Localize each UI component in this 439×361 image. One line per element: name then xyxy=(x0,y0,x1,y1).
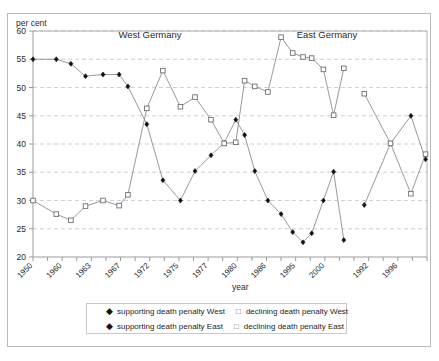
data-point-filled-diamond[interactable] xyxy=(101,72,105,77)
legend-label: declining death penalty West xyxy=(246,307,348,316)
data-point-filled-diamond[interactable] xyxy=(342,238,346,243)
data-point-open-square[interactable] xyxy=(31,198,36,203)
y-tick-label: 40 xyxy=(17,139,27,149)
data-point-open-square[interactable] xyxy=(253,84,258,89)
legend-row: ◆ supporting death penalty East □ declin… xyxy=(87,319,346,334)
x-tick-label: 1986 xyxy=(249,261,268,280)
data-point-open-square[interactable] xyxy=(423,152,428,157)
data-point-filled-diamond[interactable] xyxy=(145,122,149,127)
data-point-open-square[interactable] xyxy=(234,140,239,145)
legend-item-declining-west[interactable]: □ declining death penalty West xyxy=(234,307,348,316)
data-point-filled-diamond[interactable] xyxy=(332,169,336,174)
data-point-open-square[interactable] xyxy=(222,141,227,146)
data-point-open-square[interactable] xyxy=(362,91,367,96)
data-point-filled-diamond[interactable] xyxy=(362,203,366,208)
data-point-open-square[interactable] xyxy=(193,95,198,100)
data-point-filled-diamond[interactable] xyxy=(321,198,325,203)
data-point-open-square[interactable] xyxy=(388,141,393,146)
x-tick-label: 1996 xyxy=(380,261,399,280)
x-tick-label: 2000 xyxy=(307,261,326,280)
x-tick-label: 1972 xyxy=(132,261,151,280)
data-point-open-square[interactable] xyxy=(301,55,306,60)
y-tick-label: 60 xyxy=(17,26,27,36)
filled-diamond-icon: ◆ xyxy=(105,322,114,331)
data-point-open-square[interactable] xyxy=(321,67,326,72)
data-point-open-square[interactable] xyxy=(331,113,336,118)
x-tick-label: 1975 xyxy=(161,261,180,280)
data-point-open-square[interactable] xyxy=(69,218,74,223)
chart-legend: ◆ supporting death penalty West □ declin… xyxy=(86,303,347,334)
y-tick-label: 45 xyxy=(17,111,27,121)
x-tick-label: 1980 xyxy=(220,261,239,280)
x-tick-label: 1963 xyxy=(74,261,93,280)
legend-label: declining death penalty East xyxy=(244,322,344,331)
y-tick-label: 55 xyxy=(17,54,27,64)
y-tick-label: 50 xyxy=(17,83,27,93)
y-tick-label: 35 xyxy=(17,167,27,177)
legend-item-supporting-west[interactable]: ◆ supporting death penalty West xyxy=(105,307,225,316)
open-square-icon: □ xyxy=(234,308,243,316)
data-point-open-square[interactable] xyxy=(145,106,150,111)
data-point-open-square[interactable] xyxy=(309,56,314,61)
data-point-open-square[interactable] xyxy=(83,204,88,209)
data-point-open-square[interactable] xyxy=(178,104,183,109)
legend-item-declining-east[interactable]: □ declining death penalty East xyxy=(232,322,344,331)
plot-area: 2025303540455055601950196019631967197219… xyxy=(0,0,439,300)
data-point-open-square[interactable] xyxy=(101,198,106,203)
data-point-open-square[interactable] xyxy=(266,90,271,95)
data-point-filled-diamond[interactable] xyxy=(253,169,257,174)
data-point-filled-diamond[interactable] xyxy=(31,57,35,62)
data-point-open-square[interactable] xyxy=(342,66,347,71)
data-point-open-square[interactable] xyxy=(126,193,131,198)
legend-label: supporting death penalty West xyxy=(117,307,225,316)
panel-label-east: East Germany xyxy=(297,29,358,40)
y-tick-label: 25 xyxy=(17,224,27,234)
open-square-icon: □ xyxy=(232,323,241,331)
data-point-open-square[interactable] xyxy=(117,203,122,208)
chart-figure: per cent 2025303540455055601950196019631… xyxy=(0,0,439,361)
x-tick-label: 1995 xyxy=(278,261,297,280)
legend-label: supporting death penalty East xyxy=(117,322,223,331)
data-point-open-square[interactable] xyxy=(209,117,214,122)
filled-diamond-icon: ◆ xyxy=(105,307,114,316)
data-point-open-square[interactable] xyxy=(54,212,59,217)
y-tick-label: 20 xyxy=(17,252,27,262)
y-tick-label: 30 xyxy=(17,196,27,206)
data-point-open-square[interactable] xyxy=(161,68,166,73)
x-axis-title: year xyxy=(232,282,249,292)
legend-item-supporting-east[interactable]: ◆ supporting death penalty East xyxy=(105,322,223,331)
series-line-0 xyxy=(33,59,344,242)
x-tick-label: 1967 xyxy=(103,261,122,280)
x-tick-label: 1960 xyxy=(45,261,64,280)
legend-row: ◆ supporting death penalty West □ declin… xyxy=(87,304,346,319)
data-point-open-square[interactable] xyxy=(242,78,247,83)
x-tick-label: 1992 xyxy=(351,261,370,280)
data-point-open-square[interactable] xyxy=(279,35,284,40)
data-point-open-square[interactable] xyxy=(409,191,414,196)
x-tick-label: 1950 xyxy=(15,261,34,280)
data-point-filled-diamond[interactable] xyxy=(54,57,58,62)
panel-label-west: West Germany xyxy=(118,29,181,40)
series-line-2 xyxy=(364,116,425,205)
series-line-3 xyxy=(364,94,425,194)
series-line-1 xyxy=(33,37,344,220)
data-point-open-square[interactable] xyxy=(290,51,295,56)
x-tick-label: 1977 xyxy=(191,261,210,280)
